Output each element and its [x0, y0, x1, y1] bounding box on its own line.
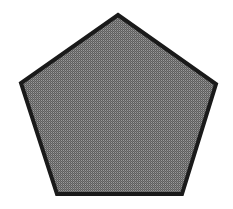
pentagon-shape	[21, 15, 216, 194]
diagram-canvas	[0, 0, 233, 209]
pentagon-figure	[0, 0, 233, 209]
